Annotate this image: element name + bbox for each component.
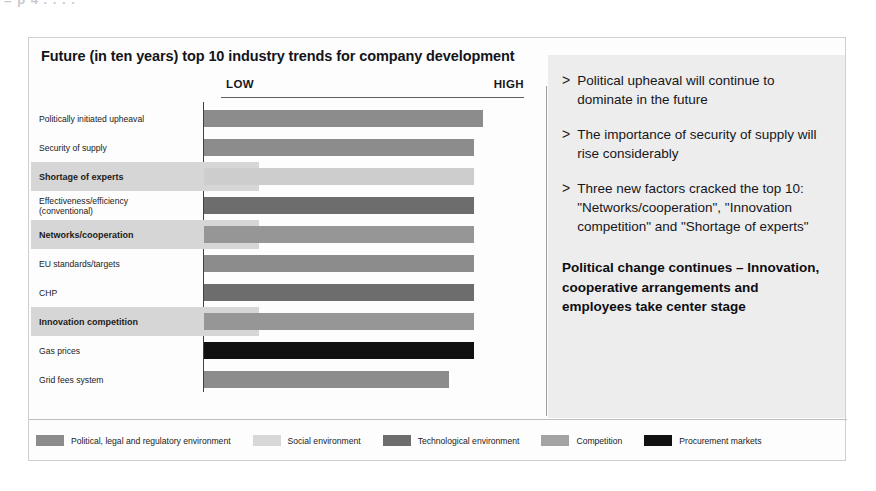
chart-bar — [204, 197, 474, 214]
chart-row-label: CHP — [39, 287, 199, 298]
legend-label: Procurement markets — [679, 436, 761, 446]
legend-label: Social environment — [288, 436, 361, 446]
legend-swatch — [36, 435, 64, 446]
legend-item: Procurement markets — [644, 435, 761, 446]
chart-bar — [204, 226, 474, 243]
legend-item: Political, legal and regulatory environm… — [36, 435, 231, 446]
chart-row-label: Shortage of experts — [39, 171, 199, 182]
chart-row-label: Effectiveness/efficiency(conventional) — [39, 195, 199, 216]
chart-row-label: Politically initiated upheaval — [39, 113, 199, 124]
commentary-bullet: >The importance of security of supply wi… — [562, 125, 831, 163]
chart-row-label: Security of supply — [39, 142, 199, 153]
chart-bar — [204, 342, 474, 359]
axis-scale-rule — [221, 97, 524, 98]
page-title: Future (in ten years) top 10 industry tr… — [41, 48, 514, 64]
legend-item: Social environment — [253, 435, 361, 446]
chart-bar — [204, 371, 449, 388]
legend-swatch — [383, 435, 411, 446]
axis-label-high: HIGH — [494, 78, 524, 90]
legend-label: Competition — [576, 436, 622, 446]
legend-label: Political, legal and regulatory environm… — [71, 436, 231, 446]
commentary-panel: >Political upheaval will continue to dom… — [548, 55, 845, 418]
chart-row: Security of supply — [29, 133, 546, 162]
legend-label: Technological environment — [418, 436, 520, 446]
chart-row: Shortage of experts — [29, 162, 546, 191]
bullet-marker-icon: > — [562, 179, 570, 236]
chart-row-label: Grid fees system — [39, 374, 199, 385]
bar-chart-plot: Politically initiated upheavalSecurity o… — [29, 102, 546, 402]
chart-row: Effectiveness/efficiency(conventional) — [29, 191, 546, 220]
legend-item: Technological environment — [383, 435, 520, 446]
chart-row: Innovation competition — [29, 307, 546, 336]
chart-bar — [204, 139, 474, 156]
bullet-marker-icon: > — [562, 71, 570, 109]
chart-bar — [204, 168, 474, 185]
chart-bar — [204, 255, 474, 272]
commentary-bullet: >Three new factors cracked the top 10: "… — [562, 179, 831, 236]
chart-row: Gas prices — [29, 336, 546, 365]
chart-row-label: Innovation competition — [39, 316, 199, 327]
chart-scale-header: LOW HIGH — [204, 78, 524, 100]
chart-legend: Political, legal and regulatory environm… — [29, 420, 847, 461]
chart-row-label: Gas prices — [39, 345, 199, 356]
slide-card: Future (in ten years) top 10 industry tr… — [28, 37, 846, 461]
commentary-bullet-text: Three new factors cracked the top 10: "N… — [577, 179, 831, 236]
chart-bar — [204, 284, 474, 301]
legend-swatch — [253, 435, 281, 446]
chart-row-label: EU standards/targets — [39, 258, 199, 269]
commentary-bullet: >Political upheaval will continue to dom… — [562, 71, 831, 109]
legend-swatch — [541, 435, 569, 446]
chart-row: Grid fees system — [29, 365, 546, 394]
axis-label-low: LOW — [226, 78, 254, 90]
commentary-conclusion: Political change continues – Innovation,… — [562, 258, 831, 317]
bullet-marker-icon: > — [562, 125, 570, 163]
commentary-bullet-text: Political upheaval will continue to domi… — [577, 71, 831, 109]
chart-row: EU standards/targets — [29, 249, 546, 278]
commentary-bullet-text: The importance of security of supply wil… — [577, 125, 831, 163]
legend-swatch — [644, 435, 672, 446]
scan-artifact-strip: = p 4 . . . . — [0, 0, 876, 12]
legend-item: Competition — [541, 435, 622, 446]
chart-row: Networks/cooperation — [29, 220, 546, 249]
chart-bar — [204, 110, 483, 127]
scan-artifact-fragment: = p 4 . . . . — [4, 0, 76, 7]
chart-bar — [204, 313, 474, 330]
chart-area: LOW HIGH Politically initiated upheavalS… — [29, 78, 546, 418]
chart-row: CHP — [29, 278, 546, 307]
chart-row: Politically initiated upheaval — [29, 104, 546, 133]
chart-row-label: Networks/cooperation — [39, 229, 199, 240]
